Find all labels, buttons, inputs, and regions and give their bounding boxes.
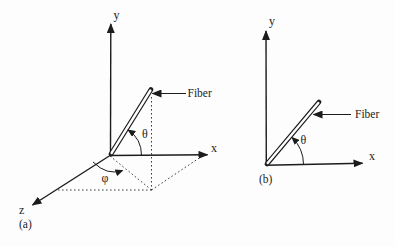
x-axis-label: x [211,141,217,155]
theta-label: θ [301,133,307,147]
panel-a-caption: (a) [19,218,32,231]
figure-canvas: y x z Fiber θ φ (a) y x Fiber θ (b) [0,0,395,246]
fiber-orientation-diagram: y x z Fiber θ φ (a) y x Fiber θ (b) [0,0,395,246]
fiber-rod [112,91,151,154]
theta-label: θ [142,127,148,141]
projection-to-x-axis-dotted-line [152,158,201,191]
panel-a: y x z Fiber θ φ (a) [19,8,217,231]
y-axis-label: y [114,8,120,22]
x-axis [266,163,363,165]
fiber-rod [268,103,319,163]
fiber-label: Fiber [188,87,212,99]
x-axis [110,155,208,156]
theta-angle-arc [128,130,141,155]
projection-diagonal-dotted-line [110,156,152,190]
y-axis-label: y [269,14,275,28]
fiber-label: Fiber [355,108,379,120]
z-axis [33,156,111,206]
phi-label: φ [102,171,109,185]
panel-b-caption: (b) [259,173,273,186]
panel-b: y x Fiber θ (b) [259,14,379,187]
z-axis-label: z [19,203,24,217]
x-axis-label: x [369,149,375,163]
